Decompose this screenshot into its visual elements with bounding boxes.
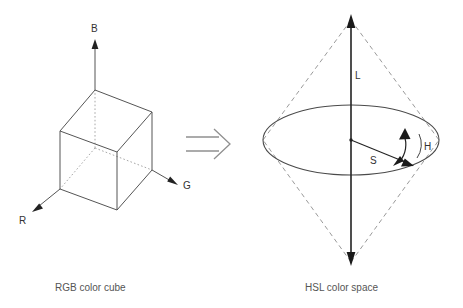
transform-arrow xyxy=(186,129,230,159)
lightness-axis-arrowhead-bottom xyxy=(347,252,356,266)
cube-edge-bottom-left xyxy=(60,189,117,210)
blue-axis-label: B xyxy=(91,23,98,34)
hidden-edge-to-left-bottom xyxy=(60,148,95,189)
red-axis-line xyxy=(39,189,60,206)
cube-visible-edges xyxy=(60,90,152,210)
cube-edge-bottom-right xyxy=(117,170,152,210)
lightness-axis-arrowhead-top xyxy=(347,14,356,28)
blue-axis-arrowhead xyxy=(92,39,99,49)
hue-label: H xyxy=(424,141,431,152)
green-axis-group: G xyxy=(152,170,191,191)
blue-axis-group: B xyxy=(91,23,98,90)
lightness-axis-group: L xyxy=(347,14,361,266)
transform-arrow-head xyxy=(214,129,230,159)
saturation-arrowhead xyxy=(401,158,414,166)
red-axis-group: R xyxy=(19,189,60,226)
rgb-cube-caption: RGB color cube xyxy=(55,282,126,293)
figure-canvas: B G R xyxy=(0,0,463,308)
hue-angle-group: H xyxy=(393,128,431,166)
saturation-label: S xyxy=(370,155,377,166)
hsl-space-caption: HSL color space xyxy=(305,282,378,293)
rgb-color-cube-group: B G R xyxy=(19,23,191,226)
red-axis-arrowhead xyxy=(32,204,43,212)
lightness-axis-label: L xyxy=(355,70,361,81)
green-axis-line xyxy=(152,170,171,181)
hidden-edge-to-right-bottom xyxy=(95,148,152,170)
hue-arrowhead-upper xyxy=(399,128,411,140)
green-axis-label: G xyxy=(183,180,191,191)
hsl-color-space-group: L S H xyxy=(263,14,439,266)
hue-arc-inner xyxy=(417,134,421,158)
cube-top-face xyxy=(60,90,152,152)
cube-hidden-edges xyxy=(60,90,152,189)
saturation-radius-line xyxy=(351,140,405,162)
green-axis-arrowhead xyxy=(167,177,178,185)
red-axis-label: R xyxy=(19,215,26,226)
